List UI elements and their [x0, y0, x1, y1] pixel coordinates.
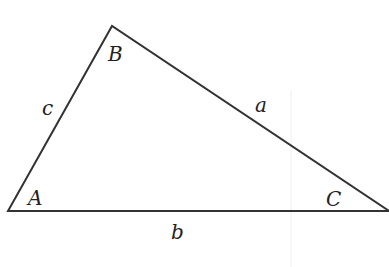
triangle-outline: [8, 26, 389, 211]
side-label-c: c: [42, 96, 53, 120]
triangle-diagram: A B C a b c: [0, 0, 389, 267]
angle-label-c: C: [326, 187, 341, 211]
side-label-a: a: [255, 93, 267, 117]
side-label-b: b: [171, 220, 184, 244]
angle-label-b: B: [107, 42, 123, 66]
angle-label-a: A: [26, 186, 42, 210]
